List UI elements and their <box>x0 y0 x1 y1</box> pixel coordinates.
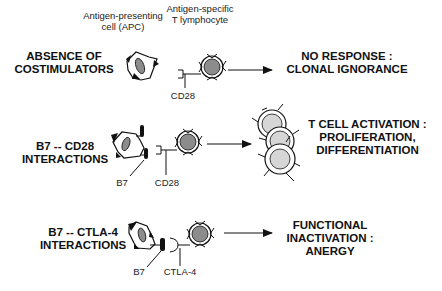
cd28-receptor-row1 <box>178 70 201 88</box>
activated-tcell-3 <box>258 144 300 181</box>
tcell-row3 <box>187 221 214 247</box>
ctla4-receptor-row3 <box>170 238 190 266</box>
diagram-graphics <box>0 0 442 291</box>
tcell-row1 <box>199 54 226 80</box>
cd28-receptor-row2 <box>156 146 177 175</box>
activated-tcells-cluster <box>252 104 300 181</box>
tcell-row2 <box>175 129 202 155</box>
apc-cell-row1 <box>126 52 159 80</box>
